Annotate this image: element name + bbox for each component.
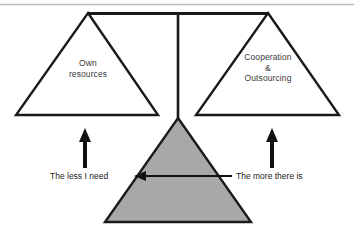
left-pan-label: Own resources xyxy=(48,58,128,79)
less-i-need-label: The less I need xyxy=(50,171,108,181)
diagram-canvas: Own resources Cooperation & Outsourcing … xyxy=(0,0,354,233)
balance-diagram xyxy=(0,0,354,233)
more-there-is-label: The more there is xyxy=(236,171,303,181)
right-pan-label: Cooperation & Outsourcing xyxy=(228,52,308,84)
left-up-arrow xyxy=(79,128,91,168)
fulcrum-pyramid xyxy=(105,118,251,222)
right-up-arrow xyxy=(266,128,278,168)
